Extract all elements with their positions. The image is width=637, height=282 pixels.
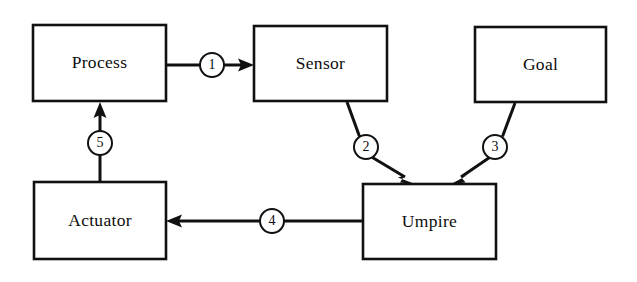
edge-3-segment-lower xyxy=(461,158,490,178)
edge-marker-4-label: 4 xyxy=(269,213,276,228)
node-process-label: Process xyxy=(72,52,128,72)
node-umpire-label: Umpire xyxy=(402,211,457,231)
node-sensor-label: Sensor xyxy=(296,53,345,73)
diagram-canvas: Process Sensor Goal Actuator Umpire 1 2 xyxy=(0,0,637,282)
node-goal-label: Goal xyxy=(523,54,558,74)
edge-marker-4: 4 xyxy=(260,209,284,233)
node-goal[interactable]: Goal xyxy=(475,27,606,102)
edge-marker-3: 3 xyxy=(483,135,507,159)
block-diagram: Process Sensor Goal Actuator Umpire 1 2 xyxy=(0,0,637,282)
edge-marker-3-label: 3 xyxy=(492,139,499,154)
edge-3-segment-upper xyxy=(503,103,516,137)
node-actuator-label: Actuator xyxy=(68,210,132,230)
edge-marker-1: 1 xyxy=(200,53,224,77)
node-sensor[interactable]: Sensor xyxy=(254,26,387,101)
edge-marker-5-label: 5 xyxy=(97,135,104,150)
edge-2-segment-lower xyxy=(373,158,406,178)
edge-marker-1-label: 1 xyxy=(209,57,216,72)
edge-2-segment-upper xyxy=(347,102,360,137)
edge-marker-5: 5 xyxy=(88,131,112,155)
node-actuator[interactable]: Actuator xyxy=(34,182,166,259)
node-process[interactable]: Process xyxy=(33,25,166,101)
node-umpire[interactable]: Umpire xyxy=(363,184,496,259)
edge-marker-2: 2 xyxy=(354,135,378,159)
edge-marker-2-label: 2 xyxy=(363,139,370,154)
